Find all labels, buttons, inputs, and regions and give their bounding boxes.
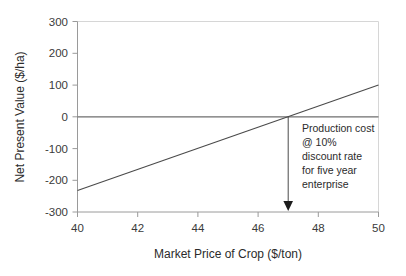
y-axis-tick-labels: 300 200 100 0 -100 -200 -300 [45,16,68,219]
y-tick-label: -300 [45,206,68,218]
y-axis-title: Net Present Value ($/ha) [13,51,27,182]
annotation-line-2: @ 10% [302,136,337,148]
x-axis-title: Market Price of Crop ($/ton) [154,247,302,261]
net-present-value-line-chart: 300 200 100 0 -100 -200 -300 40 42 44 46… [0,0,406,276]
x-tick-label: 48 [312,222,325,234]
x-tick-label: 44 [192,222,205,234]
annotation-line-1: Production cost [302,122,374,134]
x-tick-label: 42 [131,222,144,234]
x-axis-tick-labels: 40 42 44 46 48 50 [71,222,385,234]
x-tick-label: 46 [252,222,265,234]
y-tick-label: 0 [62,111,68,123]
x-tick-label: 50 [372,222,385,234]
y-tick-label: -200 [45,174,68,186]
y-tick-label: 100 [49,79,68,91]
annotation-line-3: discount rate [302,150,362,162]
y-tick-label: -100 [45,143,68,155]
y-tick-label: 200 [49,47,68,59]
y-tick-label: 300 [49,16,68,28]
y-axis-tick-marks [73,22,78,213]
x-tick-label: 40 [71,222,84,234]
chart-figure: 300 200 100 0 -100 -200 -300 40 42 44 46… [0,0,406,276]
x-axis-tick-marks [78,212,379,217]
annotation-line-5: enterprise [302,178,349,190]
annotation-line-4: for five year [302,164,357,176]
